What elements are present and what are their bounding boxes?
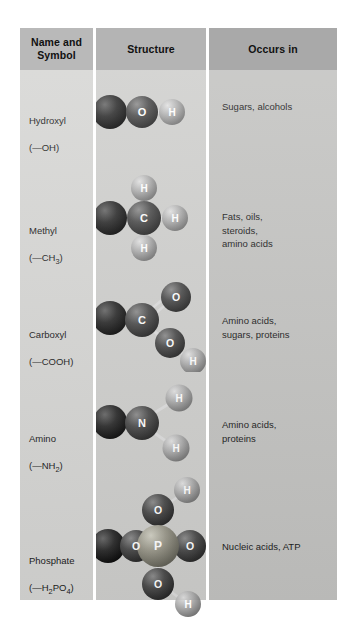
atom-label-h-right: H [171, 213, 178, 224]
label-symbol-amino: (—NH2) [29, 460, 63, 471]
name-column-body: Hydroxyl (—OH) Methyl (—CH3) Carboxyl (—… [20, 70, 93, 600]
header-occurs-in: Occurs in [209, 28, 337, 70]
label-name-amino: Amino [29, 433, 56, 444]
occurs-hydroxyl: Sugars, alcohols [222, 100, 292, 114]
atom-label-h-bottom: H [140, 243, 147, 254]
atom-label-h-top: H [183, 485, 190, 496]
label-symbol-methyl: (—CH3) [29, 252, 63, 263]
atom-label-o-hydroxyl: O [166, 337, 174, 349]
atom-label-o-left: O [132, 540, 140, 552]
label-symbol-phosphate: (—H2PO4) [29, 582, 74, 593]
atom-label-o-bottom: O [154, 578, 162, 590]
atom-label-h-bottom: H [184, 599, 191, 610]
occurs-methyl: Fats, oils, steroids, amino acids [222, 210, 273, 251]
molecule-hydroxyl: O H [96, 84, 206, 144]
column-name-and-symbol: Name and Symbol Hydroxyl (—OH) Methyl (—… [20, 28, 93, 600]
atom-label-h: H [189, 356, 196, 367]
atom-label-c: C [138, 314, 146, 326]
label-name-hydroxyl: Hydroxyl [29, 115, 66, 126]
label-name-carboxyl: Carboxyl [29, 329, 67, 340]
row-label-methyl: Methyl (—CH3) [29, 210, 63, 264]
occurs-phosphate: Nucleic acids, ATP [222, 540, 301, 554]
column-occurs-in: Occurs in Sugars, alcohols Fats, oils, s… [209, 28, 337, 600]
label-name-phosphate: Phosphate [29, 555, 74, 566]
atom-label-h: H [168, 107, 175, 118]
atom-label-o: O [138, 106, 147, 118]
occurs-amino: Amino acids, proteins [222, 418, 276, 445]
atom-label-o-double: O [172, 291, 180, 303]
structure-column-body: O H H H C H [96, 70, 206, 600]
atom-label-p: P [154, 539, 162, 553]
label-symbol-carboxyl: (—COOH) [29, 356, 73, 367]
label-symbol-hydroxyl: (—OH) [29, 142, 59, 153]
column-structure: Structure [96, 28, 206, 600]
atom-label-h-lower: H [172, 443, 179, 454]
molecule-carboxyl: C O O H [96, 276, 206, 372]
atom-label-n: N [138, 417, 146, 429]
molecule-phosphate: H O O P O O H [96, 474, 206, 624]
header-name-and-symbol: Name and Symbol [20, 28, 93, 70]
row-label-amino: Amino (—NH2) [29, 418, 63, 472]
molecule-amino: N H H [96, 378, 206, 470]
row-label-phosphate: Phosphate (—H2PO4) [29, 540, 74, 594]
atom-label-h-top: H [140, 183, 147, 194]
atom-label-o-right: O [186, 540, 194, 552]
atom-label-o-top: O [154, 504, 162, 516]
occurs-carboxyl: Amino acids, sugars, proteins [222, 314, 290, 341]
functional-groups-table: Name and Symbol Hydroxyl (—OH) Methyl (—… [20, 28, 337, 600]
atom-label-h-upper: H [175, 393, 182, 404]
label-name-methyl: Methyl [29, 225, 57, 236]
row-label-carboxyl: Carboxyl (—COOH) [29, 314, 73, 368]
row-label-hydroxyl: Hydroxyl (—OH) [29, 100, 66, 154]
molecule-methyl: H H C H [96, 170, 206, 266]
atom-label-c: C [140, 212, 148, 224]
occurs-column-body: Sugars, alcohols Fats, oils, steroids, a… [209, 70, 337, 600]
header-structure: Structure [96, 28, 206, 70]
